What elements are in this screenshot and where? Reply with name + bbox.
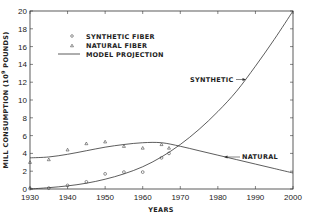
fiber-consumption-chart: 1930 1940 1950 1960 1970 1980 1990 2000 … [0, 0, 310, 217]
arrow-head-icon [224, 156, 228, 159]
arrow-head-icon [243, 78, 247, 81]
y-tick-label: 10 [18, 96, 27, 105]
natural-data-point-triangle-icon [160, 143, 163, 146]
natural-data-point-triangle-icon [104, 140, 107, 143]
annotation-synthetic-label: SYNTHETIC [190, 76, 233, 84]
natural-fiber-points [29, 140, 171, 163]
natural-data-point-triangle-icon [122, 145, 125, 148]
y-tick-label: 16 [18, 43, 27, 52]
x-axis-tick-labels: 1930 1940 1950 1960 1970 1980 1990 2000 [21, 193, 302, 202]
synthetic-model-curve [30, 11, 293, 189]
y-tick-label: 2 [23, 167, 28, 176]
synthetic-data-point-circle-icon [141, 171, 144, 174]
legend: SYNTHETIC FIBER NATURAL FIBER MODEL PROJ… [58, 33, 164, 59]
natural-data-point-triangle-icon [141, 146, 144, 149]
legend-circle-icon [71, 35, 74, 38]
y-tick-label: 18 [18, 25, 27, 34]
y-tick-label: 12 [18, 78, 27, 87]
x-tick-label: 2000 [284, 193, 302, 202]
natural-data-point-triangle-icon [47, 158, 50, 161]
plot-frame [30, 11, 293, 189]
axis-ticks [30, 11, 293, 189]
x-tick-label: 1950 [96, 193, 114, 202]
x-tick-label: 1990 [247, 193, 265, 202]
y-axis-title-tail: POUNDS) [2, 32, 10, 71]
legend-label-model: MODEL PROJECTION [86, 51, 164, 59]
y-tick-label: 20 [18, 7, 27, 16]
synthetic-data-point-circle-icon [123, 171, 126, 174]
y-tick-label: 8 [23, 114, 28, 123]
synthetic-fiber-points [29, 152, 171, 190]
natural-data-point-triangle-icon [66, 148, 69, 151]
x-axis-title: YEARS [147, 206, 173, 214]
legend-triangle-icon [71, 44, 74, 47]
x-tick-label: 1980 [209, 193, 227, 202]
x-tick-label: 1930 [21, 193, 39, 202]
annotation-natural-label: NATURAL [242, 153, 278, 161]
y-tick-label: 4 [23, 149, 28, 158]
natural-data-point-triangle-icon [168, 146, 171, 149]
y-axis-title: MILL CONSUMPTION (109 POUNDS) [0, 32, 10, 169]
natural-data-point-triangle-icon [85, 142, 88, 145]
synthetic-data-point-circle-icon [104, 172, 107, 175]
x-tick-label: 1970 [171, 193, 189, 202]
y-tick-label: 14 [18, 60, 27, 69]
x-tick-label: 1960 [134, 193, 152, 202]
x-tick-label: 1940 [59, 193, 77, 202]
legend-label-natural: NATURAL FIBER [86, 42, 147, 50]
annotation-natural: NATURAL [224, 153, 278, 161]
y-axis-title-main: MILL CONSUMPTION (10 [2, 74, 10, 169]
annotation-synthetic: SYNTHETIC [190, 76, 246, 84]
legend-label-synthetic: SYNTHETIC FIBER [86, 33, 155, 41]
y-axis-tick-labels: 0 2 4 6 8 10 12 14 16 18 20 [18, 7, 27, 194]
y-tick-label: 0 [23, 185, 28, 194]
y-tick-label: 6 [23, 132, 28, 141]
